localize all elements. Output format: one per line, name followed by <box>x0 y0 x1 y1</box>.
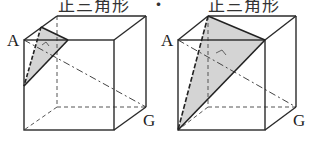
right-triangle-section <box>178 16 265 130</box>
left-label-A: A <box>7 31 20 50</box>
left-diagonal-AG <box>24 40 146 107</box>
diagram-canvas: A G A G <box>0 0 314 152</box>
left-cube: A G <box>7 16 155 130</box>
right-cube: A G <box>161 16 305 130</box>
right-label-A: A <box>161 31 174 50</box>
left-label-G: G <box>143 111 155 130</box>
right-label-G: G <box>293 111 305 130</box>
